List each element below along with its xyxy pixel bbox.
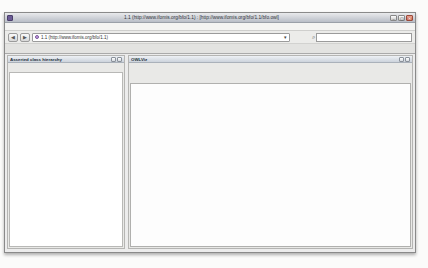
class-hierarchy-header: Asserted class hierarchy — [8, 56, 124, 63]
ontology-address-value: 1.1 (http://www.ifomis.org/bfo/1.1) — [41, 35, 282, 40]
content-area: Asserted class hierarchy OWLViz — [7, 55, 413, 249]
class-hierarchy-panel: Asserted class hierarchy — [7, 55, 125, 249]
owlviz-model-tabs — [129, 75, 412, 83]
maximize-button[interactable]: ▢ — [398, 15, 405, 21]
back-button[interactable]: ◀ — [8, 33, 18, 42]
owlviz-canvas[interactable] — [130, 83, 411, 247]
owlviz-header: OWLViz — [129, 56, 412, 63]
panel-close-button[interactable] — [405, 57, 410, 62]
search-icon: ⌕ — [312, 34, 315, 41]
owlviz-panel: OWLViz — [128, 55, 413, 249]
title-bar[interactable]: 1.1 (http://www.ifomis.org/bfo/1.1) : [h… — [5, 13, 415, 23]
chevron-down-icon: ▾ — [284, 34, 287, 40]
panel-float-button[interactable] — [399, 57, 404, 62]
main-toolbar: ◀ ▶ 1.1 (http://www.ifomis.org/bfo/1.1) … — [5, 31, 415, 44]
class-graph — [131, 84, 410, 246]
panel-float-button[interactable] — [111, 57, 116, 62]
owlviz-toolbar — [129, 63, 412, 75]
window-controls: – ▢ ✕ — [390, 15, 413, 21]
window-title: 1.1 (http://www.ifomis.org/bfo/1.1) : [h… — [13, 15, 390, 20]
tab-bar — [5, 44, 415, 54]
class-tree-toolbar — [8, 63, 124, 72]
panel-close-button[interactable] — [117, 57, 122, 62]
class-tree — [9, 72, 123, 247]
class-hierarchy-title: Asserted class hierarchy — [10, 57, 110, 62]
menu-bar — [5, 23, 415, 31]
ontology-address-combo[interactable]: 1.1 (http://www.ifomis.org/bfo/1.1) ▾ — [32, 33, 290, 42]
minimize-button[interactable]: – — [390, 15, 397, 21]
search-area: ⌕ — [312, 33, 412, 42]
ontology-icon — [35, 35, 39, 39]
search-input[interactable] — [316, 33, 412, 42]
owlviz-title: OWLViz — [131, 57, 398, 62]
close-button[interactable]: ✕ — [406, 15, 413, 21]
forward-button[interactable]: ▶ — [20, 33, 30, 42]
protege-window: 1.1 (http://www.ifomis.org/bfo/1.1) : [h… — [4, 12, 416, 253]
desktop: 1.1 (http://www.ifomis.org/bfo/1.1) : [h… — [0, 0, 428, 268]
